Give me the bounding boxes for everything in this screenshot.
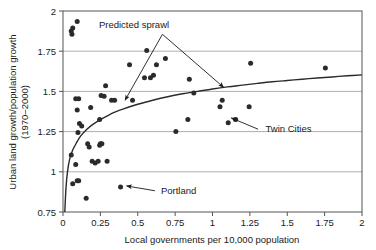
y-axis-title-line2: (1970–2000) [19,85,30,139]
y-tick-label: 1.25 [38,126,57,137]
data-point [99,141,104,146]
x-tick-label: 0.5 [131,217,144,228]
x-axis-ticks [63,212,362,216]
y-tick-label: 0.75 [38,207,57,218]
data-point [75,19,80,24]
y-axis-title-line1: Urban land growth/population growth [7,34,18,189]
y-axis-ticks [59,11,63,212]
y-tick-label: 1.75 [38,46,57,57]
data-point [75,130,80,135]
x-tick-label: 1.75 [315,217,334,228]
data-point [97,117,102,122]
data-point [142,75,147,80]
data-point [73,162,78,167]
x-tick-label: 1.5 [281,217,294,228]
x-axis-title: Local governments per 10,000 population [125,234,300,245]
data-point [323,66,328,71]
data-point [173,129,178,134]
x-tick-label: 1.25 [241,217,260,228]
data-point [76,178,81,183]
data-point [151,73,156,78]
data-point [112,98,117,103]
data-point [247,104,252,109]
data-point [185,117,190,122]
data-point [220,98,225,103]
chart-canvas: 00.250.50.7511.251.51.752 0.7511.251.51.… [0,0,376,250]
data-point [69,152,74,157]
data-point [70,25,75,30]
data-point [102,94,107,99]
data-point [127,62,132,67]
data-point [187,77,192,82]
data-point [96,159,101,164]
y-axis-tick-labels: 0.7511.251.51.752 [38,6,57,218]
data-point [88,105,93,110]
x-tick-label: 1 [210,217,215,228]
x-tick-label: 2 [359,217,364,228]
data-point [75,107,80,112]
data-point [248,61,253,66]
plot-background [63,11,362,212]
data-point [130,98,135,103]
data-point [69,32,74,37]
data-point [79,123,84,128]
x-tick-label: 0 [60,217,65,228]
y-tick-label: 1.5 [43,86,56,97]
data-point [163,56,168,61]
x-tick-label: 0.75 [166,217,185,228]
y-tick-label: 1 [51,166,56,177]
data-point [217,104,222,109]
annotation-label-predicted-sprawl: Predicted sprawl [99,19,169,30]
data-point [144,48,149,53]
data-point [226,120,231,125]
data-point [105,159,110,164]
y-tick-label: 2 [51,6,56,17]
data-point [191,91,196,96]
annotation-label-twin-cities: Twin Cities [266,123,312,134]
data-point [84,196,89,201]
data-point [103,83,108,88]
data-point [118,185,123,190]
data-point [76,96,81,101]
data-point [87,144,92,149]
data-point [154,62,159,67]
annotation-label-portland: Portland [161,185,196,196]
x-axis-tick-labels: 00.250.50.7511.251.51.752 [60,217,364,228]
data-point [70,181,75,186]
scatter-chart-figure: 00.250.50.7511.251.51.752 0.7511.251.51.… [0,0,376,250]
x-tick-label: 0.25 [91,217,110,228]
